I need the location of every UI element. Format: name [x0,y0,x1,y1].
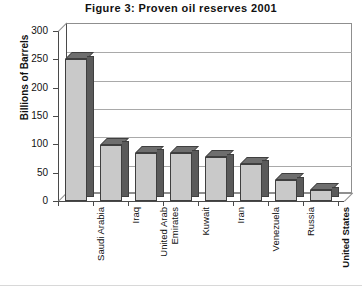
bar-kuwait[interactable] [170,146,192,201]
x-label-uae-line2: Emirates [170,207,181,286]
x-tick-8 [338,201,339,206]
bar-saudi-arabia[interactable] [65,52,87,201]
x-label-iran: Iran [236,207,247,286]
bar-face-united-states [310,190,332,201]
gridline-200 [66,81,352,82]
bar-side-venezuela [262,160,269,197]
gridline-150 [66,109,352,110]
bar-face-iran [205,157,227,201]
gridline-250 [66,52,352,53]
bar-united-arab-emirates[interactable] [135,146,157,202]
x-label-united-arab-emirates: United Arab Emirates [159,207,180,286]
bar-face-kuwait [170,153,192,201]
bar-iran[interactable] [205,150,227,201]
y-tick-200 [53,88,58,89]
x-label-iraq: Iraq [131,207,142,286]
y-tick-label-250: 250 [0,54,48,64]
y-tick-label-150: 150 [0,111,48,121]
x-tick-2 [128,201,129,206]
x-tick-3 [163,201,164,206]
x-tick-5 [233,201,234,206]
bar-face-iraq [100,145,122,202]
x-label-kuwait: Kuwait [201,207,212,286]
x-axis-baseline-front [58,201,344,202]
bar-side-iraq [122,141,129,197]
bar-face-venezuela [240,164,262,201]
y-tick-label-100: 100 [0,139,48,149]
bar-side-iran [227,154,234,198]
bar-face-russia [275,180,297,201]
plot-area: 300 250 200 150 100 50 0 [0,0,362,286]
y-tick-100 [53,144,58,145]
x-label-united-states: United States [341,207,352,286]
y-tick-label-0: 0 [0,196,48,206]
bar-venezuela[interactable] [240,157,262,201]
bar-side-russia [297,177,304,197]
x-tick-1 [93,201,94,206]
x-label-venezuela: Venezuela [271,207,282,286]
bar-face-united-arab-emirates [135,153,157,202]
y-tick-300 [53,31,58,32]
bar-side-united-arab-emirates [157,149,164,197]
bar-side-saudi-arabia [87,56,94,198]
y-tick-50 [53,173,58,174]
y-tick-label-300: 300 [0,26,48,36]
x-tick-6 [268,201,269,206]
x-tick-7 [303,201,304,206]
bar-russia[interactable] [275,173,297,201]
y-tick-250 [53,59,58,60]
figure-container: Figure 3: Proven oil reserves 2001 Billi… [0,0,362,286]
bar-side-united-states [332,187,339,197]
bar-iraq[interactable] [100,138,122,202]
bar-united-states[interactable] [310,183,332,201]
x-tick-4 [198,201,199,206]
x-label-uae-line1: United Arab [159,207,170,286]
x-label-russia: Russia [306,207,317,286]
y-tick-150 [53,116,58,117]
y-tick-label-200: 200 [0,83,48,93]
bar-face-saudi-arabia [65,59,87,201]
y-tick-label-50: 50 [0,168,48,178]
x-label-saudi-arabia: Saudi Arabia [96,207,107,286]
y-axis-line-front [58,31,59,202]
x-tick-0 [58,201,59,206]
bar-side-kuwait [192,150,199,198]
